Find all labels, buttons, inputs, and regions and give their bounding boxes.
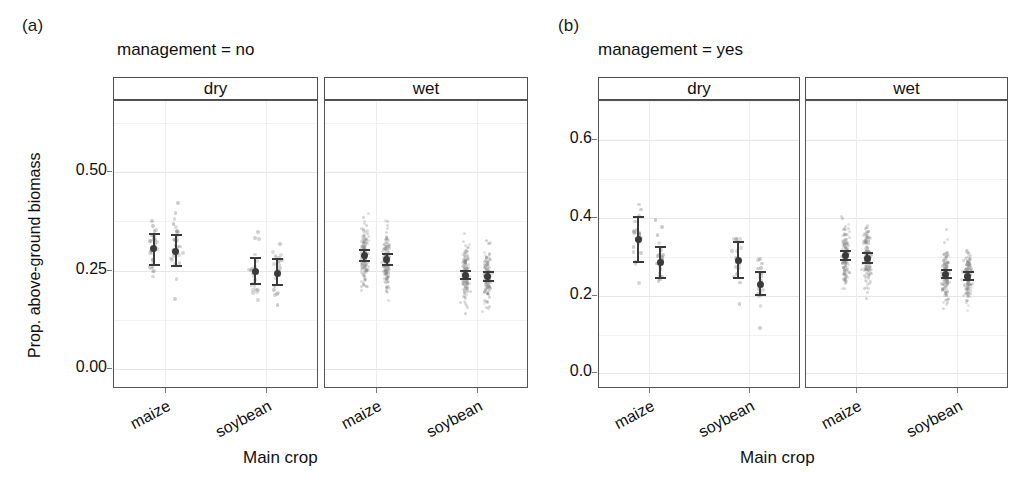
data-point	[484, 254, 487, 257]
data-point	[367, 265, 370, 268]
gridline-major	[114, 369, 317, 370]
error-bar	[267, 258, 287, 286]
data-point	[943, 241, 946, 244]
mean-marker	[172, 248, 179, 255]
data-point	[848, 236, 851, 239]
data-point	[251, 288, 255, 292]
data-point	[271, 250, 275, 254]
data-point	[756, 258, 760, 262]
data-point	[387, 299, 390, 302]
error-bar-cap-bottom	[483, 280, 494, 282]
data-point	[639, 208, 643, 212]
data-point	[462, 240, 465, 243]
data-point	[257, 237, 261, 241]
data-point	[488, 296, 491, 299]
data-point	[385, 231, 388, 234]
error-bar-cap-top	[272, 258, 283, 260]
gridline-vertical	[376, 101, 377, 387]
data-point	[486, 301, 489, 304]
data-point	[848, 271, 851, 274]
data-point	[278, 242, 282, 246]
y-tick-label: 0.00	[55, 358, 107, 376]
data-point	[360, 285, 363, 288]
data-point	[945, 228, 948, 231]
facet-strip-a-wet: wet	[324, 77, 528, 100]
error-bar-cap-top	[862, 252, 873, 254]
data-point	[967, 304, 970, 307]
gridline-minor	[599, 335, 799, 336]
mean-marker	[252, 268, 259, 275]
mean-marker	[150, 245, 157, 252]
figure-root: (a) management = no Prop. above-ground b…	[0, 0, 1027, 488]
gridline-minor	[325, 221, 527, 222]
data-point	[360, 268, 363, 271]
data-point	[870, 268, 873, 271]
mean-marker	[735, 257, 742, 264]
error-bar	[857, 252, 877, 264]
mean-marker	[635, 236, 642, 243]
data-point	[864, 264, 867, 267]
gridline-vertical	[649, 101, 650, 387]
gridline-major	[599, 373, 799, 374]
panel-a: (a) management = no Prop. above-ground b…	[0, 0, 540, 488]
x-tick-label: soybean	[203, 397, 275, 447]
error-bar	[478, 271, 498, 282]
error-bar	[245, 257, 265, 285]
error-bar	[455, 270, 475, 281]
panel-b: (b) management = yes Main crop dry wet 0…	[540, 0, 1027, 488]
data-point	[176, 201, 180, 205]
error-bar	[166, 234, 186, 268]
x-tick-label: maize	[312, 397, 384, 447]
error-bar	[958, 271, 978, 281]
data-point	[152, 269, 156, 273]
gridline-minor	[599, 101, 799, 102]
gridline-minor	[806, 179, 1007, 180]
data-point	[945, 294, 948, 297]
gridline-major	[114, 172, 317, 173]
gridline-minor	[325, 123, 527, 124]
gridline-minor	[114, 320, 317, 321]
data-point	[966, 288, 969, 291]
facet-strip-b-dry: dry	[598, 77, 800, 100]
data-point	[867, 287, 870, 290]
data-point	[173, 217, 177, 221]
y-tick-mark	[592, 295, 597, 296]
gridline-vertical	[957, 101, 958, 387]
data-point	[383, 266, 386, 269]
data-point	[367, 212, 370, 215]
data-point	[174, 225, 178, 229]
data-point	[253, 253, 257, 257]
y-tick-label: 0.4	[544, 207, 592, 225]
data-point	[943, 263, 946, 266]
x-tick-mark	[856, 388, 857, 393]
data-point	[970, 286, 973, 289]
gridline-minor	[806, 335, 1007, 336]
data-point	[468, 243, 471, 246]
data-point	[966, 299, 969, 302]
data-point	[866, 270, 869, 273]
gridline-vertical	[749, 101, 750, 387]
data-point	[386, 237, 389, 240]
facet-strip-b-wet-label: wet	[893, 79, 919, 99]
x-tick-mark	[649, 388, 650, 393]
data-point	[386, 291, 389, 294]
data-point	[151, 224, 155, 228]
data-point	[459, 301, 462, 304]
y-axis-title-a: Prop. above-ground biomass	[26, 153, 44, 358]
gridline-major	[806, 373, 1007, 374]
data-point	[489, 241, 492, 244]
data-point	[660, 225, 664, 229]
gridline-major	[806, 296, 1007, 297]
error-bar-cap-top	[382, 253, 393, 255]
error-bar	[835, 250, 855, 262]
x-tick-mark	[266, 388, 267, 393]
data-point	[657, 279, 661, 283]
error-bar-cap-bottom	[359, 260, 370, 262]
data-point	[654, 218, 658, 222]
gridline-major	[806, 218, 1007, 219]
error-bar-cap-bottom	[171, 265, 182, 267]
data-point	[469, 290, 472, 293]
data-point	[253, 236, 257, 240]
error-bar-cap-bottom	[862, 262, 873, 264]
data-point	[360, 280, 363, 283]
